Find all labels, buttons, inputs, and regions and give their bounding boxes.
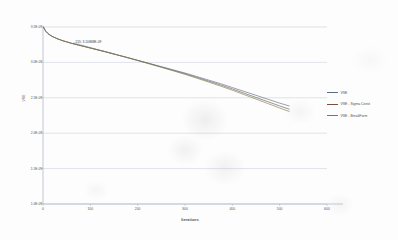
x-axis-tick-label: 600 <box>314 207 340 211</box>
x-axis-title: Iterations <box>150 218 230 222</box>
y-axis-tick-label: 1.0E-09 <box>14 202 42 206</box>
line-chart-plot <box>0 0 398 240</box>
y-axis-tick-label: 2.0E-09 <box>14 131 42 135</box>
x-axis-tick-label: 300 <box>172 207 198 211</box>
y-axis-tick-label: 2.5E-09 <box>14 96 42 100</box>
legend-item-label: VSE - BreakForm <box>341 114 368 118</box>
chart-legend: VSE VSE - Sigma Const VSE - BreakForm <box>327 90 370 118</box>
legend-color-swatch <box>327 115 338 116</box>
x-axis-tick-label: 400 <box>219 207 245 211</box>
legend-color-swatch <box>327 104 338 105</box>
x-axis-tick-label: 200 <box>125 207 151 211</box>
legend-item[interactable]: VSE - Sigma Const <box>327 102 370 107</box>
legend-color-swatch <box>327 92 338 93</box>
y-axis-tick-label: 3.5E-09 <box>14 25 42 29</box>
x-axis-tick-label: 500 <box>267 207 293 211</box>
legend-item-label: VSE <box>341 91 348 95</box>
chart-container: VSE Iterations 3.5E-093.0E-092.5E-092.0E… <box>0 0 398 240</box>
legend-item[interactable]: VSE - BreakForm <box>327 113 370 118</box>
x-axis-tick-label: 0 <box>30 207 56 211</box>
data-point-annotation: 155: 3.10868E-09 <box>75 40 101 44</box>
x-axis-tick-label: 100 <box>77 207 103 211</box>
legend-item-label: VSE - Sigma Const <box>341 102 371 106</box>
y-axis-tick-label: 1.5E-09 <box>14 167 42 171</box>
legend-item[interactable]: VSE <box>327 90 370 95</box>
y-axis-tick-label: 3.0E-09 <box>14 60 42 64</box>
